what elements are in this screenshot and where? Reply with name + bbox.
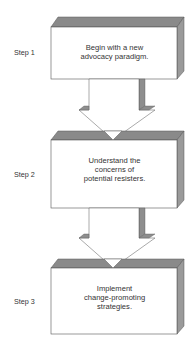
step-1-text-line-1: Begin with a new xyxy=(52,43,177,52)
step-1-label: Step 1 xyxy=(14,48,35,57)
step-2-text-line-1: Understand the xyxy=(52,156,177,165)
step-1-box-side xyxy=(177,17,184,79)
step-2-text-line-2: concerns of xyxy=(52,165,177,174)
step-2-text-line-3: potential resisters. xyxy=(52,174,177,183)
step-3-text-line-2: change-promoting xyxy=(52,293,177,302)
step-3-box-side xyxy=(177,259,184,334)
arrow-2-left-wing-shade xyxy=(79,234,89,238)
arrow-1-left-wing-shade xyxy=(79,106,89,110)
step-2-box-side xyxy=(177,131,184,208)
step-3-text-line-3: strategies. xyxy=(52,302,177,311)
step-2-text: Understand the concerns of potential res… xyxy=(52,156,177,183)
step-3-label: Step 3 xyxy=(14,297,35,306)
step-2-label: Step 2 xyxy=(14,170,35,179)
step-1-box-top xyxy=(51,17,184,27)
step-3-text: Implement change-promoting strategies. xyxy=(52,284,177,311)
step-1-text: Begin with a new advocacy paradigm. xyxy=(52,43,177,61)
step-1-text-line-2: advocacy paradigm. xyxy=(52,52,177,61)
arrow-1-shaft-shade xyxy=(139,79,145,110)
step-3-text-line-1: Implement xyxy=(52,284,177,293)
arrow-2-shaft-shade xyxy=(139,208,145,238)
